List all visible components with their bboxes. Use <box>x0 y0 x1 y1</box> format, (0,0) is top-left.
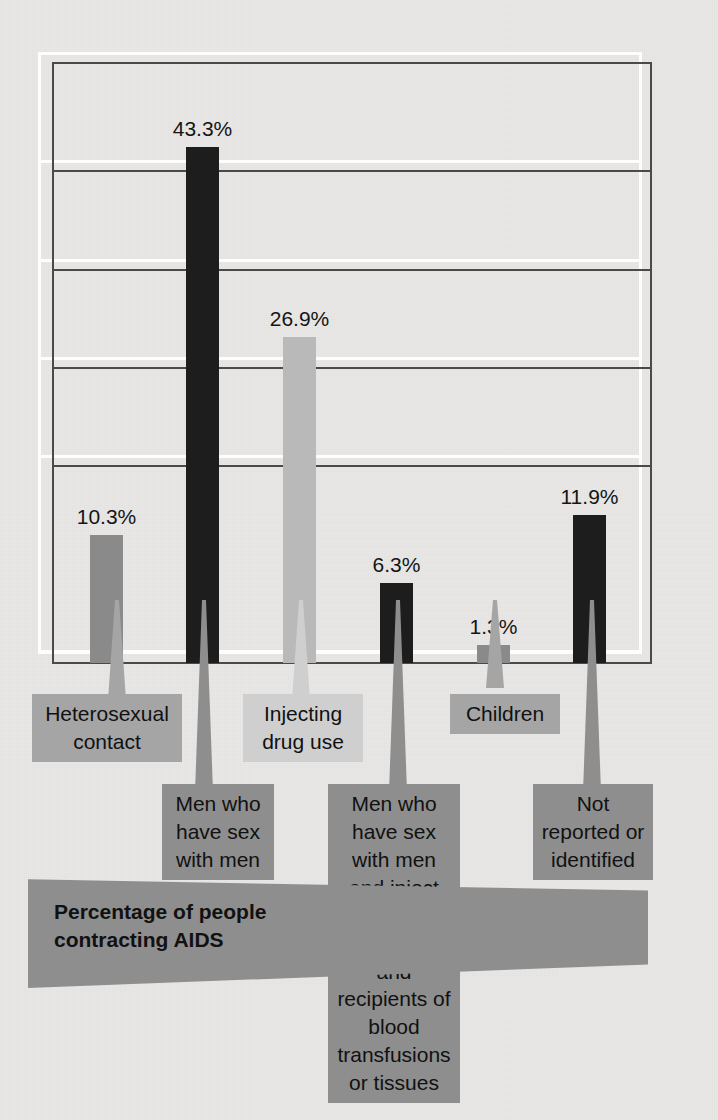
bar-value-not-reported: 11.9% <box>561 485 619 509</box>
bar-value-heterosexual-contact: 10.3% <box>77 505 137 529</box>
bar-value-msm: 43.3% <box>173 117 233 141</box>
bar-msm <box>186 147 219 663</box>
caption-line-2: contracting AIDS <box>54 926 354 954</box>
callout-heterosexual-contact[interactable]: Heterosexual contact <box>32 694 182 762</box>
caption-line-1: Percentage of people <box>54 898 354 926</box>
bar-value-msm-idu-blood: 6.3% <box>373 553 421 577</box>
bar-group-msm: 43.3% <box>186 147 219 663</box>
callout-not-reported[interactable]: Not reported or identified <box>533 784 653 880</box>
caption-title: Percentage of people contracting AIDS <box>54 898 354 953</box>
callout-msm[interactable]: Men who have sex with men <box>162 784 274 880</box>
bar-value-injecting-drug-use: 26.9% <box>270 307 330 331</box>
callout-children[interactable]: Children <box>450 694 560 734</box>
callout-injecting-drug-use[interactable]: Injecting drug use <box>243 694 363 762</box>
bars-layer: 10.3% 43.3% 26.9% 6.3% 1.3% 11.9% <box>0 0 718 663</box>
chart-page: 10.3% 43.3% 26.9% 6.3% 1.3% 11.9% <box>0 0 718 1120</box>
